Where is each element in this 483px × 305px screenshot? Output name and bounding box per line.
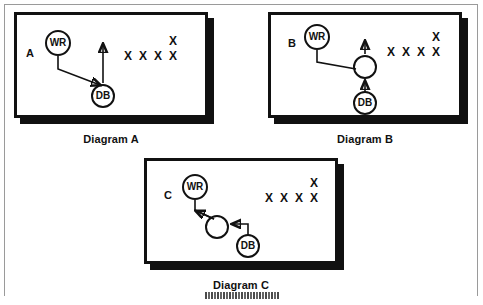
diagram-caption-a: Diagram A — [14, 133, 208, 145]
defender-x-1-b: X — [387, 46, 395, 58]
defender-x-offset-b: X — [432, 31, 440, 43]
panel-field-c: C WR DB X X X X X — [144, 158, 338, 264]
defender-x-3-b: X — [417, 46, 425, 58]
panel-field-b: B WR DB X X X X X — [268, 12, 462, 118]
defender-x-offset-a: X — [169, 35, 177, 47]
defender-x-offset-c: X — [310, 177, 318, 189]
scan-artifact-strip — [205, 292, 279, 299]
diagram-panel-a: A WR DB X X X X X — [14, 12, 208, 118]
defender-x-3-a: X — [154, 50, 162, 62]
diagram-caption-b: Diagram B — [268, 133, 462, 145]
route-lines-a — [14, 12, 208, 118]
diagram-panel-b: B WR DB X X X X X — [268, 12, 462, 118]
diagram-panel-c: C WR DB X X X X X — [144, 158, 338, 264]
route-lines-c — [144, 158, 338, 264]
defender-x-1-c: X — [265, 192, 273, 204]
defender-x-2-c: X — [280, 192, 288, 204]
defender-x-2-b: X — [402, 46, 410, 58]
route-lines-b — [268, 12, 462, 118]
defender-x-4-a: X — [169, 50, 177, 62]
defender-x-4-c: X — [310, 192, 318, 204]
diagram-caption-c: Diagram C — [144, 279, 338, 291]
defender-x-3-c: X — [295, 192, 303, 204]
defender-x-2-a: X — [139, 50, 147, 62]
panel-field-a: A WR DB X X X X X — [14, 12, 208, 118]
defender-x-4-b: X — [432, 46, 440, 58]
defender-x-1-a: X — [124, 50, 132, 62]
